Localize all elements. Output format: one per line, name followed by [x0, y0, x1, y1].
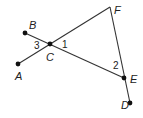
point-a-dot — [16, 62, 21, 67]
angle-label-2: 2 — [113, 60, 119, 71]
point-label-e: E — [130, 73, 138, 85]
point-c-dot — [48, 42, 53, 47]
geometry-diagram: ABCFED 312 — [0, 0, 143, 118]
segment-be — [25, 33, 124, 78]
angle-label-3: 3 — [34, 40, 40, 51]
point-labels: ABCFED — [14, 4, 138, 111]
point-b-dot — [23, 31, 28, 36]
point-label-b: B — [29, 19, 36, 31]
point-label-f: F — [114, 4, 122, 16]
point-label-a: A — [14, 70, 22, 82]
point-e-dot — [122, 76, 127, 81]
segment-fd — [110, 7, 130, 103]
angle-label-1: 1 — [62, 39, 68, 50]
point-label-c: C — [46, 51, 54, 63]
point-label-d: D — [121, 99, 129, 111]
